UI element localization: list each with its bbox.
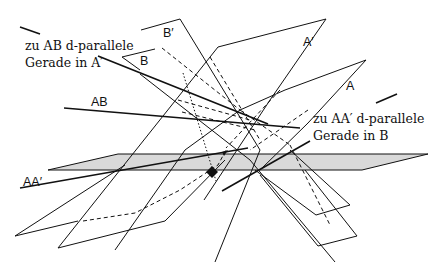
line-ab xyxy=(64,108,300,128)
label-a: A xyxy=(346,79,355,93)
label-a-prime: A′ xyxy=(303,35,314,49)
label-b: B xyxy=(140,54,148,68)
geometry-figure: B′ A′ B A AB AA′ zu AB d-parallele Gerad… xyxy=(0,0,443,262)
label-aa-prime: AA′ xyxy=(23,175,43,189)
base-plane xyxy=(48,154,428,170)
plane-b-prime xyxy=(141,19,260,262)
annotation-ab-line2: Gerade in A′ xyxy=(25,55,103,70)
plane-a-prime xyxy=(58,19,326,248)
annotation-ab-line1: zu AB d-parallele xyxy=(25,38,134,53)
label-b-prime: B′ xyxy=(163,26,174,40)
label-ab: AB xyxy=(91,95,108,109)
annotation-aa-line2: Gerade in B xyxy=(313,128,388,143)
annotation-aa-line1: zu AA′ d-parallele xyxy=(313,111,424,126)
diagram-canvas: B′ A′ B A AB AA′ zu AB d-parallele Gerad… xyxy=(0,0,443,262)
